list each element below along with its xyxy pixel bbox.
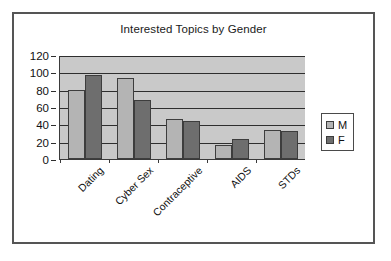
chart-frame: Interested Topics by Gender 020406080100… (12, 12, 375, 244)
y-tick-label: 120 (30, 50, 49, 62)
legend-label-m: M (338, 119, 347, 131)
bar-group (60, 56, 109, 159)
y-tick-mark (51, 56, 56, 57)
y-tick-label: 40 (36, 119, 49, 131)
legend-swatch-icon-f (326, 136, 334, 144)
legend-entry-m: M (326, 117, 347, 132)
chart-title: Interested Topics by Gender (14, 23, 373, 35)
bar-m-4[interactable] (264, 130, 281, 159)
y-tick-mark (51, 73, 56, 74)
x-axis-label: Cyber Sex (112, 164, 155, 207)
bar-m-0[interactable] (68, 90, 85, 159)
y-tick-label: 60 (36, 102, 49, 114)
bar-f-2[interactable] (183, 121, 200, 159)
bar-group (158, 56, 207, 159)
bar-f-1[interactable] (134, 100, 151, 159)
y-axis: 020406080100120 (14, 56, 56, 160)
plot-area (59, 56, 305, 160)
x-axis-label: Dating (76, 164, 106, 194)
y-tick-label: 20 (36, 137, 49, 149)
legend: M F (321, 113, 354, 151)
bar-m-3[interactable] (215, 145, 232, 159)
bar-m-2[interactable] (166, 119, 183, 159)
bar-group (207, 56, 256, 159)
legend-label-f: F (338, 134, 345, 146)
x-axis-labels: DatingCyber SexContraceptiveAIDSSTDs (59, 160, 305, 240)
y-tick-label: 100 (30, 67, 49, 79)
y-tick-mark (51, 91, 56, 92)
bar-m-1[interactable] (117, 78, 134, 159)
y-tick-mark (51, 160, 56, 161)
y-tick-label: 80 (36, 85, 49, 97)
legend-entry-f: F (326, 132, 347, 147)
x-label-slot: Cyber Sex (147, 160, 148, 161)
legend-swatch-icon-m (326, 121, 334, 129)
x-axis-label: STDs (276, 164, 303, 191)
x-axis-label: Contraceptive (150, 164, 204, 218)
bar-f-3[interactable] (232, 139, 249, 159)
bar-f-4[interactable] (281, 131, 298, 159)
plot-area-wrapper (59, 56, 305, 160)
y-tick-mark (51, 143, 56, 144)
y-tick-mark (51, 108, 56, 109)
x-label-slot: Contraceptive (196, 160, 197, 161)
bar-group (109, 56, 158, 159)
y-tick-mark (51, 125, 56, 126)
x-label-slot: Dating (97, 160, 98, 161)
x-label-slot: AIDS (245, 160, 246, 161)
x-label-slot: STDs (294, 160, 295, 161)
bars-layer (60, 56, 305, 159)
bar-group (256, 56, 305, 159)
y-tick-label: 0 (43, 154, 49, 166)
bar-f-0[interactable] (85, 75, 102, 159)
x-axis-label: AIDS (228, 164, 254, 190)
